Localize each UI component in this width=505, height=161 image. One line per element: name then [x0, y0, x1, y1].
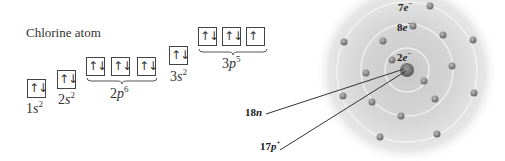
- orbital-box-1s-1: ↑↓: [27, 79, 46, 98]
- orbital-box-3p-3: ↑: [246, 27, 265, 46]
- orbital-box-2p-1: ↑↓: [86, 57, 105, 76]
- orbital-label-2p: 2p6: [110, 84, 129, 102]
- proton-count-label: 17p+: [260, 139, 281, 152]
- orbital-box-2p-3: ↑↓: [137, 57, 156, 76]
- orbital-label-1s: 1s2: [26, 99, 43, 117]
- orbital-box-2s-1: ↑↓: [57, 70, 76, 89]
- orbital-box-3p-2: ↑↓: [222, 27, 241, 46]
- orbital-box-3p-1: ↑↓: [198, 27, 217, 46]
- shell-3-electron-count: 7e−: [398, 0, 412, 13]
- orbital-box-3s-1: ↑↓: [169, 46, 188, 65]
- orbital-label-3s: 3s2: [170, 67, 187, 85]
- shell-2-electron-count: 8e−: [397, 20, 411, 33]
- diagram-title: Chlorine atom: [26, 25, 101, 41]
- neutron-count-label: 18n: [245, 106, 262, 118]
- orbital-label-2s: 2s2: [58, 90, 75, 108]
- orbital-label-3p: 3p5: [222, 54, 241, 72]
- orbital-box-2p-2: ↑↓: [111, 57, 130, 76]
- shell-1-electron-count: 2e−: [397, 50, 411, 63]
